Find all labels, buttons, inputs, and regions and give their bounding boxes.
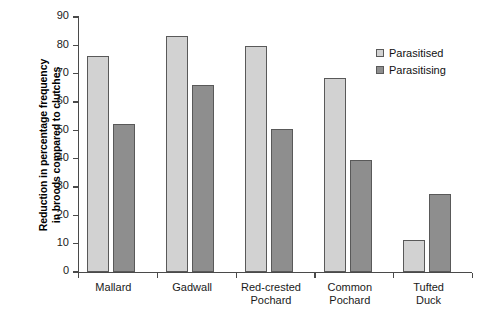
y-axis-tick: 80 xyxy=(73,45,78,46)
x-axis-category-label: CommonPochard xyxy=(327,281,372,307)
x-axis-category-label-line: Mallard xyxy=(95,281,131,294)
x-axis-tick xyxy=(314,273,315,278)
legend-item-parasitising: Parasitising xyxy=(376,61,446,78)
legend-swatch-icon-parasitised xyxy=(376,49,384,57)
y-axis-tick-label: 80 xyxy=(57,38,69,50)
y-axis-tick-label: 70 xyxy=(57,66,69,78)
x-axis-category-label-line: Tufted Duck xyxy=(407,281,450,307)
y-axis-tick: 70 xyxy=(73,73,78,74)
x-axis-tick xyxy=(157,273,158,278)
bar-parasitised-gadwall xyxy=(166,36,188,272)
legend-label-parasitised: Parasitised xyxy=(389,47,443,59)
y-axis-tick: 10 xyxy=(73,243,78,244)
bar-parasitised-common-pochard xyxy=(324,78,346,272)
bar-parasitising-gadwall xyxy=(192,85,214,272)
y-axis-tick-label: 90 xyxy=(57,9,69,21)
y-axis-tick: 40 xyxy=(73,158,78,159)
y-axis-tick-label: 60 xyxy=(57,94,69,106)
legend-label-parasitising: Parasitising xyxy=(389,64,446,76)
y-axis-tick: 60 xyxy=(73,101,78,102)
y-axis-line xyxy=(78,16,79,273)
legend-swatch-icon-parasitising xyxy=(376,66,384,74)
y-axis-tick: 90 xyxy=(73,16,78,17)
y-axis-tick-label: 50 xyxy=(57,123,69,135)
x-axis-tick xyxy=(236,273,237,278)
legend: Parasitised Parasitising xyxy=(376,44,446,78)
x-axis-category-label: Tufted Duck xyxy=(407,281,450,307)
y-axis-tick-label: 40 xyxy=(57,151,69,163)
x-axis-category-label-line: Gadwall xyxy=(172,281,212,294)
x-axis-category-label: Gadwall xyxy=(172,281,212,294)
y-axis-title-line-1: Reduction in percentage frequency xyxy=(37,14,50,276)
x-axis-category-label-line: Pochard xyxy=(241,294,301,307)
bar-chart: Reduction in percentage frequency in bro… xyxy=(0,0,490,322)
y-axis-tick-label: 0 xyxy=(63,264,69,276)
bar-parasitising-tufted-duck xyxy=(429,194,451,272)
bar-parasitising-mallard xyxy=(113,124,135,272)
bar-parasitised-tufted-duck xyxy=(403,240,425,272)
x-axis-category-label-line: Common xyxy=(327,281,372,294)
y-axis-tick-label: 20 xyxy=(57,208,69,220)
bar-parasitised-mallard xyxy=(87,56,109,272)
x-axis-tick xyxy=(472,273,473,278)
x-axis-category-label: Mallard xyxy=(95,281,131,294)
x-axis-category-label: Red-crestedPochard xyxy=(241,281,301,307)
bar-parasitising-red-crested-pochard xyxy=(271,129,293,272)
y-axis-tick: 20 xyxy=(73,215,78,216)
x-axis-tick xyxy=(78,273,79,278)
bar-parasitising-common-pochard xyxy=(350,160,372,272)
bar-parasitised-red-crested-pochard xyxy=(245,46,267,272)
y-axis-tick-label: 10 xyxy=(57,236,69,248)
x-axis-line xyxy=(78,272,472,273)
y-axis-tick: 50 xyxy=(73,130,78,131)
x-axis-category-label-line: Pochard xyxy=(327,294,372,307)
legend-item-parasitised: Parasitised xyxy=(376,44,446,61)
y-axis-tick: 30 xyxy=(73,186,78,187)
y-axis-tick-label: 30 xyxy=(57,179,69,191)
x-axis-category-label-line: Red-crested xyxy=(241,281,301,294)
x-axis-tick xyxy=(393,273,394,278)
